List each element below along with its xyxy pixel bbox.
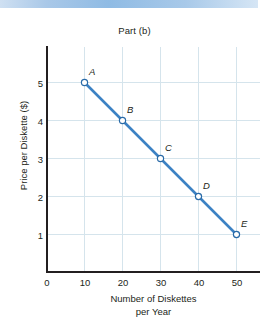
x-axis-title-line1: Number of Diskettes: [47, 293, 260, 306]
plot-area: A B C D E: [47, 47, 260, 272]
x-axis-title: Number of Diskettes per Year: [47, 293, 260, 318]
x-tick-10: 10: [73, 277, 97, 288]
point-label-c: C: [165, 142, 172, 153]
point-label-a: A: [89, 66, 95, 77]
data-point-c: [157, 155, 163, 161]
data-point-e: [233, 231, 239, 237]
x-axis-title-line2: per Year: [47, 306, 260, 319]
y-tick-4: 4: [29, 115, 43, 126]
point-label-e: E: [241, 218, 247, 229]
data-point-b: [119, 117, 125, 123]
data-point-a: [81, 79, 87, 85]
y-axis-line: [46, 46, 48, 273]
point-label-b: B: [127, 104, 133, 115]
y-tick-2: 2: [29, 191, 43, 202]
y-axis-title: Price per Diskette ($): [18, 76, 29, 216]
x-tick-30: 30: [149, 277, 173, 288]
x-tick-0: 0: [35, 277, 59, 288]
point-label-d: D: [203, 180, 210, 191]
chart-figure: Part (b) A B C D E: [0, 0, 269, 330]
y-tick-5: 5: [29, 77, 43, 88]
data-series-demand: [47, 47, 260, 272]
y-tick-1: 1: [29, 229, 43, 240]
x-tick-50: 50: [225, 277, 249, 288]
x-tick-20: 20: [111, 277, 135, 288]
x-tick-40: 40: [187, 277, 211, 288]
data-point-d: [195, 193, 201, 199]
y-tick-3: 3: [29, 153, 43, 164]
x-axis-line: [46, 271, 260, 273]
